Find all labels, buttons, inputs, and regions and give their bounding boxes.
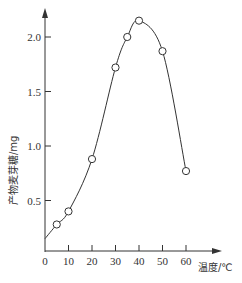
y-axis-label: 产物麦芽糖/mg <box>7 136 19 205</box>
y-tick-label: 2.0 <box>27 31 41 43</box>
y-axis-arrow-icon <box>42 8 48 18</box>
x-axis-arrow-icon <box>212 248 222 254</box>
x-tick-label: 60 <box>181 255 193 267</box>
data-point-marker <box>135 17 142 24</box>
data-point-marker <box>65 208 72 215</box>
x-tick-label: 30 <box>110 255 122 267</box>
data-point-marker <box>88 155 95 162</box>
y-tick-label: 1.0 <box>27 140 41 152</box>
x-axis-label: 温度/℃ <box>198 261 233 273</box>
x-tick-label: 0 <box>42 255 48 267</box>
y-tick-label: 0.5 <box>27 195 41 207</box>
y-tick-label: 1.5 <box>27 86 41 98</box>
x-tick-label: 20 <box>87 255 99 267</box>
y-ticks: 0.51.01.52.0 <box>27 31 51 207</box>
x-ticks: 0102030405060 <box>42 245 192 267</box>
data-point-marker <box>112 64 119 71</box>
x-tick-label: 10 <box>63 255 75 267</box>
line-chart: 0102030405060 0.51.01.52.0 温度/℃ 产物麦芽糖/mg <box>0 0 242 283</box>
x-tick-label: 40 <box>134 255 146 267</box>
data-point-marker <box>124 33 131 40</box>
data-point-marker <box>53 221 60 228</box>
data-point-marker <box>159 48 166 55</box>
data-point-marker <box>182 167 189 174</box>
x-tick-label: 50 <box>157 255 169 267</box>
